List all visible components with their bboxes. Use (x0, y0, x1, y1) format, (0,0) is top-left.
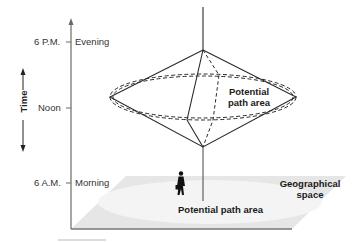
ground-path-area-label: Potential path area (178, 205, 263, 215)
arrow-up-icon (21, 68, 26, 75)
tick-label-6pm: 6 P.M. (34, 37, 60, 47)
time-axis-arrowhead-icon (69, 18, 74, 25)
footer-rule (58, 239, 106, 241)
prism-back-path (203, 50, 219, 147)
prism-label-line1: Potential (222, 87, 276, 97)
prism-front-path (187, 50, 203, 147)
tick-label-noon: Noon (38, 103, 61, 113)
prism-label-line2: path area (222, 98, 276, 108)
arrow-down-icon (21, 145, 26, 152)
geographical-space-label-line1: Geographical (273, 179, 347, 189)
time-axis-label: Time (18, 89, 29, 115)
tick-label-6am: 6 A.M. (34, 178, 61, 188)
period-label-evening: Evening (75, 37, 109, 47)
geographical-space-label-line2: space (273, 190, 347, 200)
period-label-morning: Morning (75, 178, 109, 188)
